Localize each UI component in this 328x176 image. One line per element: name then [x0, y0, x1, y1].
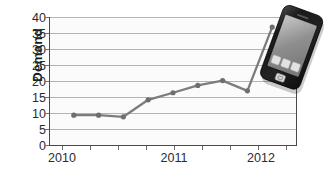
data-point — [195, 83, 200, 88]
demand-line-chart-figure: Demand 40 35 30 25 20 15 10 5 0 2010 201… — [0, 0, 328, 176]
x-minor-ticks — [63, 146, 287, 150]
smartphone-icon — [252, 0, 328, 96]
data-point — [71, 113, 76, 118]
y-minor-ticks — [45, 18, 49, 146]
smartphone-photo-overlay — [252, 0, 328, 96]
data-point — [146, 97, 151, 102]
data-point — [220, 78, 225, 83]
data-point — [170, 90, 175, 95]
data-point — [245, 88, 250, 93]
data-point — [121, 114, 126, 119]
data-point — [96, 113, 101, 118]
